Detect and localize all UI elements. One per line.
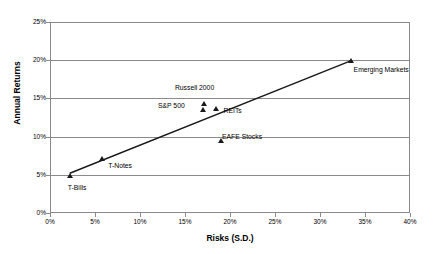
data-point-label: Russell 2000 [175,84,214,92]
x-axis-tick-label: 25% [260,218,290,225]
x-axis-tick-label: 15% [170,218,200,225]
data-point-label: S&P 500 [158,102,185,110]
data-point-label: Emerging Markets [354,66,409,74]
x-axis-tick-label: 30% [305,218,335,225]
x-axis-tick-mark [185,213,186,217]
x-axis-tick-mark [50,213,51,217]
x-axis-tick-mark [410,213,411,217]
x-axis-tick-label: 5% [80,218,110,225]
x-axis-tick-mark [320,213,321,217]
x-axis-title: Risks (S.D.) [50,233,410,243]
x-axis-tick-label: 0% [35,218,65,225]
y-axis-tick-label: 0% [37,209,46,216]
gridline-horizontal [51,175,409,176]
y-axis-tick-mark [46,60,50,61]
gridline-horizontal [51,98,409,99]
data-point-label: REITs [224,107,242,115]
data-point-marker [213,106,219,111]
data-point-marker [99,156,105,161]
data-point-marker [201,101,207,106]
x-axis-tick-mark [275,213,276,217]
scatter-chart: 0%5%10%15%20%25% 0%5%10%15%20%25%30%35%4… [0,0,439,254]
x-axis-tick-mark [140,213,141,217]
y-axis-tick-mark [46,175,50,176]
x-axis-tick-mark [365,213,366,217]
x-axis-tick-mark [95,213,96,217]
y-axis-tick-mark [46,22,50,23]
y-axis-tick-label: 15% [33,94,46,101]
x-axis-tick-label: 40% [395,218,425,225]
y-axis-tick-mark [46,98,50,99]
data-point-label: T-Bills [68,184,87,192]
x-axis-tick-label: 35% [350,218,380,225]
y-axis-tick-label: 5% [37,171,46,178]
x-axis-tick-label: 20% [215,218,245,225]
x-axis-tick-label: 10% [125,218,155,225]
data-point-label: EAFE Stocks [222,133,262,141]
y-axis-tick-label: 25% [33,18,46,25]
x-axis-tick-mark [230,213,231,217]
gridline-horizontal [51,60,409,61]
data-point-label: T-Notes [108,162,132,170]
data-point-marker [67,173,73,178]
data-point-marker [200,107,206,112]
y-axis-tick-label: 10% [33,133,46,140]
y-axis-tick-mark [46,137,50,138]
plot-area [50,22,410,213]
y-axis-title: Annual Returns [12,38,22,148]
y-axis-tick-label: 20% [33,56,46,63]
data-point-marker [348,58,354,63]
